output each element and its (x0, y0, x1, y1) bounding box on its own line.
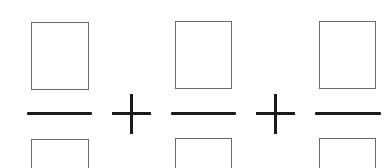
numerator-box-3[interactable] (319, 21, 376, 89)
plus-icon-vertical (274, 94, 277, 134)
plus-icon-vertical (130, 94, 133, 134)
denominator-box-1[interactable] (31, 139, 89, 168)
fraction-bar-1 (27, 112, 92, 115)
fraction-bar-2 (171, 112, 236, 115)
denominator-box-3[interactable] (319, 138, 376, 168)
denominator-box-2[interactable] (175, 138, 232, 168)
numerator-box-1[interactable] (31, 22, 89, 90)
numerator-box-2[interactable] (175, 21, 232, 89)
fraction-bar-3 (315, 112, 381, 115)
